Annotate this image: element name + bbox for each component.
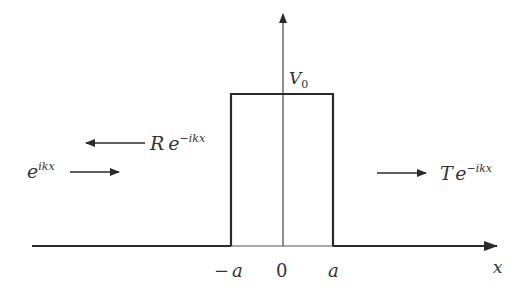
incident-wave-label: eikx [27, 160, 55, 182]
barrier-height-label: V0 [289, 68, 308, 91]
potential-barrier [231, 94, 333, 246]
transmitted-wave-label: Te−ikx [440, 162, 493, 184]
tick-label-zero: 0 [276, 260, 287, 281]
tick-label-minus-a: −a [214, 260, 243, 281]
potential-barrier-diagram: V0 −a 0 a x eikx Re−ikx Te−ikx [0, 0, 531, 295]
x-axis-label: x [493, 257, 503, 277]
tick-label-a: a [328, 260, 339, 281]
reflected-wave-label: Re−ikx [149, 132, 206, 154]
